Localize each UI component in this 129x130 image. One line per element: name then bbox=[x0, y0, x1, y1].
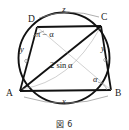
vertex-label-a: A bbox=[6, 88, 13, 98]
geometry-figure: A B C D z x y y 2 sin α π − α α bbox=[0, 0, 129, 130]
label-angle-adc: π − α bbox=[36, 29, 54, 39]
label-side-bc-y: y bbox=[100, 43, 105, 53]
figure-caption: 図 6 bbox=[0, 118, 129, 129]
side-ad bbox=[20, 27, 37, 91]
figure-container: A B C D z x y y 2 sin α π − α α 図 6 bbox=[0, 0, 129, 130]
diagonal-ac bbox=[20, 26, 101, 91]
side-dc bbox=[37, 26, 101, 27]
arc-marker-x bbox=[24, 96, 108, 103]
vertex-label-b: B bbox=[115, 88, 121, 98]
vertex-label-d: D bbox=[28, 14, 35, 24]
label-arc-top-z: z bbox=[61, 4, 66, 14]
label-arc-bottom-x: x bbox=[61, 96, 66, 106]
label-angle-b: α bbox=[93, 74, 98, 84]
label-side-ad-y: y bbox=[19, 44, 24, 54]
side-ab bbox=[20, 90, 111, 91]
label-diagonal-ac: 2 sin α bbox=[50, 60, 73, 70]
vertex-label-c: C bbox=[101, 12, 107, 22]
